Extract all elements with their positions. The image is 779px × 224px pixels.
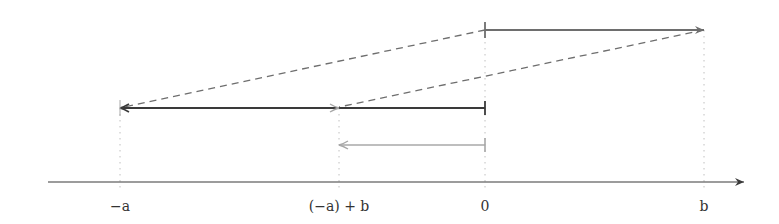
dotted-guides bbox=[120, 30, 704, 188]
label-neg-a-plus-b: (−a) + b bbox=[309, 198, 370, 214]
dash-origin bbox=[124, 30, 485, 107]
label-neg-a: −a bbox=[110, 198, 130, 214]
dashed-links bbox=[124, 30, 704, 107]
label-zero: 0 bbox=[481, 198, 490, 214]
label-b: b bbox=[700, 198, 709, 214]
axis-labels: −a (−a) + b 0 b bbox=[110, 198, 709, 214]
vectors bbox=[120, 22, 704, 152]
dash-tip bbox=[339, 30, 704, 107]
vector-addition-diagram: −a (−a) + b 0 b bbox=[0, 0, 779, 224]
